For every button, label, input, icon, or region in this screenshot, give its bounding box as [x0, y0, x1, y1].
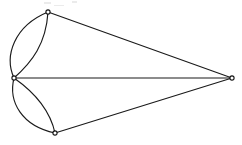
noise-mark-c [54, 5, 64, 6]
graph-canvas [0, 0, 242, 145]
noise-mark-b [72, 1, 77, 3]
graph-vertex-right [230, 76, 234, 80]
graph-vertex-top [46, 10, 50, 14]
edge-layer [10, 12, 232, 133]
graph-diagram-figure [0, 0, 242, 145]
graph-edge-left-top-outer [10, 12, 48, 78]
graph-edge-bottom-right-straight [55, 78, 232, 133]
graph-vertex-bottom [53, 131, 57, 135]
graph-edge-left-bottom-outer [13, 78, 55, 133]
graph-vertex-left [12, 76, 16, 80]
noise-mark-a [44, 2, 51, 4]
graph-edge-top-right-straight [48, 12, 232, 78]
